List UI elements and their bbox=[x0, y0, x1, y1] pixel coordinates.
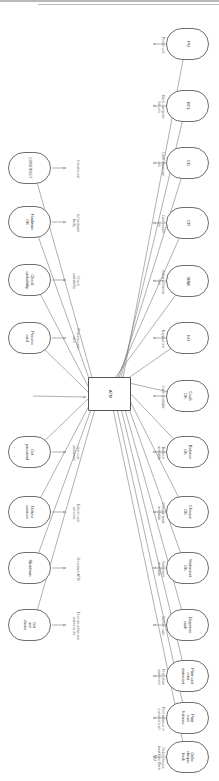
node-hardware-ok-label: Hardware OK bbox=[25, 212, 33, 233]
node-pu-label: PU bbox=[185, 39, 189, 49]
edge-label-balance-available: Balance available bbox=[156, 430, 164, 476]
node-deliver-services[interactable]: Deliver services bbox=[8, 496, 51, 528]
node-statement-ok-label: Statement OK bbox=[183, 557, 192, 579]
node-print-mini-statement-label: Print cust mini statement bbox=[181, 666, 194, 687]
edge-label-bank-computer-link: Bank computer link unit bbox=[156, 84, 164, 130]
node-cd[interactable]: CD bbox=[166, 147, 209, 179]
node-check-cashability[interactable]: Check cashability bbox=[8, 264, 51, 296]
node-ku-label: KU bbox=[185, 333, 189, 343]
node-shutdown[interactable]: Shutdown bbox=[8, 552, 51, 584]
edge-label-get-cust-password: Get cust password bbox=[71, 430, 79, 476]
node-ku[interactable]: KU bbox=[166, 322, 209, 354]
node-bcl-label: BCL bbox=[185, 100, 189, 112]
diagram-canvas: ATM PU BCL CD CR SBM KU Cash OK Balance … bbox=[0, 0, 219, 781]
edge-label-is-hardware-faulty: Is hardware faulty bbox=[71, 200, 79, 246]
node-statement-ok[interactable]: Statement OK bbox=[166, 552, 209, 584]
node-atm-label: ATM bbox=[107, 388, 112, 401]
edge-label-deliver-cash: Deliver cash bbox=[160, 603, 164, 649]
node-dispense-cash[interactable]: Dispense cash bbox=[166, 609, 209, 641]
edge-label-cheque-book-available: Cheque book available bbox=[156, 490, 164, 536]
edge-label-card-reader-unit: Card reader unit bbox=[156, 201, 164, 247]
node-cash-ok-label: Cash OK bbox=[183, 389, 192, 402]
edge-label-order-cheque-book: Order cheque book from Bank HQ bbox=[152, 733, 164, 781]
edge-label-check-cashability: Check cashability bbox=[71, 258, 79, 304]
node-deliver-services-label: Deliver services bbox=[25, 503, 33, 521]
node-get-password[interactable]: Get password bbox=[8, 436, 51, 468]
node-get-use-choice-label: Get use choice bbox=[23, 618, 36, 633]
node-sbm[interactable]: SBM bbox=[166, 265, 209, 297]
node-bcl[interactable]: BCL bbox=[166, 90, 209, 122]
node-balance-ok[interactable]: Balance OK bbox=[166, 436, 209, 468]
edge-label-shutdown-atm: Shutdown ATM bbox=[75, 546, 79, 592]
node-cheque-ok[interactable]: Cheque OK bbox=[166, 496, 209, 528]
node-print-cust-balance[interactable]: Print cust balance bbox=[166, 702, 209, 734]
node-check-cashability-label: Check cashability bbox=[25, 269, 33, 291]
node-cr-label: CR bbox=[185, 218, 189, 228]
node-cr[interactable]: CR bbox=[166, 207, 209, 239]
node-shutdown-label: Shutdown bbox=[27, 558, 31, 579]
node-atm[interactable]: ATM bbox=[88, 377, 131, 411]
node-cash-ok[interactable]: Cash OK bbox=[166, 380, 209, 412]
edge-label-find-out-what-user-wants: Find out what user wants to do bbox=[71, 601, 79, 651]
node-pu[interactable]: PU bbox=[166, 28, 209, 60]
node-hardware-ok[interactable]: Hardware OK bbox=[8, 206, 51, 238]
node-cheque-ok-label: Cheque OK bbox=[183, 503, 192, 521]
edge-label-statement-available: Statement available bbox=[156, 546, 164, 592]
node-print-mini-statement[interactable]: Print cust mini statement bbox=[166, 660, 209, 692]
node-construct[interactable]: CONSTRUCT bbox=[8, 152, 51, 184]
node-process-card[interactable]: Process card bbox=[8, 322, 51, 354]
edge-label-printer-unit: Printer unit bbox=[160, 22, 164, 68]
edge-label-process-cash-card: Process cash card bbox=[71, 316, 79, 362]
node-construct-label: CONSTRUCT bbox=[28, 155, 32, 181]
node-cd-label: CD bbox=[185, 158, 189, 168]
node-get-password-label: Get password bbox=[25, 442, 33, 462]
edge-label-constructor: Constructor bbox=[75, 146, 79, 192]
edge-label-cash-dispenser-unit: Cash dispenser unit bbox=[156, 141, 164, 187]
node-balance-ok-label: Balance OK bbox=[183, 443, 192, 461]
edge-label-solitary-monitor-unit: Solitary Monitor unit bbox=[156, 259, 164, 305]
node-dispense-cash-label: Dispense cash bbox=[183, 615, 192, 636]
edge-label-keypad-unit: Keypad unit bbox=[160, 316, 164, 362]
node-sbm-label: SBM bbox=[185, 275, 189, 288]
node-get-use-choice[interactable]: Get use choice bbox=[8, 609, 51, 641]
edge-label-cash-available: Cash available bbox=[160, 374, 164, 420]
edge-label-deliver-user-services: Deliver user services bbox=[71, 490, 79, 536]
node-print-cust-balance-label: Print cust balance bbox=[181, 709, 194, 726]
node-process-card-label: Process card bbox=[25, 329, 33, 347]
node-order-cheque-book-label: Order cheque book bbox=[181, 749, 194, 766]
node-order-cheque-book[interactable]: Order cheque book bbox=[166, 741, 209, 773]
